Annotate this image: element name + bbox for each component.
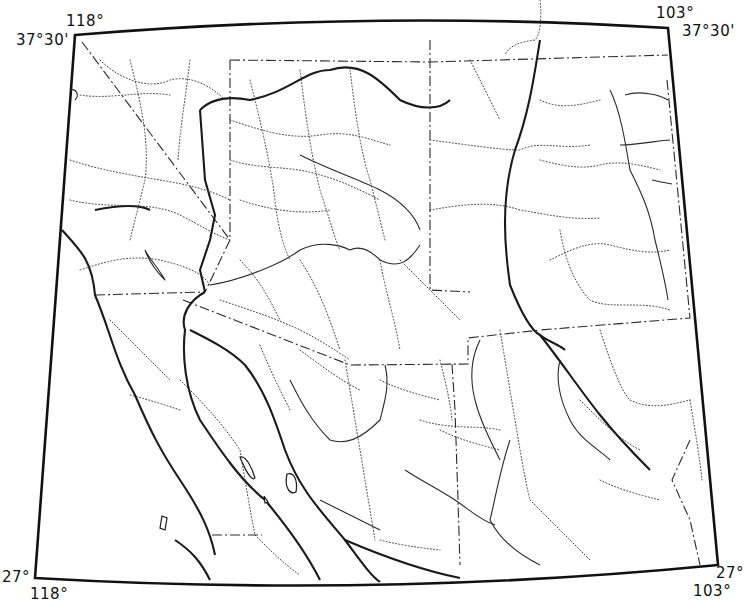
label-bottom-right-latitude: 27°: [716, 564, 744, 582]
label-top-left-longitude: 118°: [66, 12, 104, 30]
map-frame: [35, 20, 718, 585]
islands: [160, 457, 297, 530]
label-bottom-left-longitude: 118°: [30, 585, 68, 602]
label-top-right-longitude: 103°: [656, 4, 694, 22]
state-boundaries: [82, 40, 700, 565]
label-top-right-latitude: 37°30': [682, 22, 735, 40]
coastlines: [62, 40, 650, 582]
label-top-left-latitude: 37°30': [16, 31, 69, 49]
label-bottom-left-latitude: 27°: [2, 568, 30, 586]
rivers: [70, 90, 672, 565]
label-bottom-right-longitude: 103°: [693, 582, 731, 600]
